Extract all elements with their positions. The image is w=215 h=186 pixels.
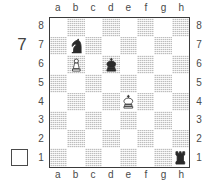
rank-label-5: 5 [192,74,206,93]
square-e2[interactable] [120,130,137,149]
square-f1[interactable] [137,148,154,167]
square-b3[interactable] [67,111,84,130]
file-label-h: h [172,1,190,15]
rank-label-7: 7 [34,36,48,55]
side-to-move-indicator [11,149,28,166]
square-e5[interactable] [120,74,137,93]
square-f4[interactable] [137,93,154,112]
square-h7[interactable] [172,37,189,56]
square-g8[interactable] [154,18,171,37]
square-h4[interactable] [172,93,189,112]
square-g6[interactable] [154,55,171,74]
rank-label-2: 2 [34,130,48,149]
square-a3[interactable] [50,111,67,130]
square-f2[interactable] [137,130,154,149]
white-pawn-icon[interactable] [67,55,84,74]
square-a1[interactable] [50,148,67,167]
rank-label-1: 1 [192,149,206,168]
square-h2[interactable] [172,130,189,149]
file-label-b: b [67,168,85,182]
file-labels-top: abcdefgh [49,1,190,16]
square-a6[interactable] [50,55,67,74]
square-e3[interactable] [120,111,137,130]
square-h3[interactable] [172,111,189,130]
square-h8[interactable] [172,18,189,37]
square-d8[interactable] [102,18,119,37]
square-b1[interactable] [67,148,84,167]
file-label-g: g [155,168,173,182]
square-c7[interactable] [85,37,102,56]
file-label-e: e [120,168,138,182]
square-h5[interactable] [172,74,189,93]
square-e7[interactable] [120,37,137,56]
square-c8[interactable] [85,18,102,37]
file-label-c: c [84,168,102,182]
square-a5[interactable] [50,74,67,93]
black-king-icon[interactable] [102,55,119,74]
rank-label-3: 3 [34,111,48,130]
square-h6[interactable] [172,55,189,74]
chess-board-wrapper [49,17,190,168]
square-f3[interactable] [137,111,154,130]
square-a7[interactable] [50,37,67,56]
rank-label-8: 8 [192,17,206,36]
square-b6[interactable] [67,55,84,74]
square-g1[interactable] [154,148,171,167]
square-a2[interactable] [50,130,67,149]
square-d6[interactable] [102,55,119,74]
file-label-a: a [49,168,67,182]
rank-label-2: 2 [192,130,206,149]
square-g7[interactable] [154,37,171,56]
chess-board [49,17,190,168]
square-d1[interactable] [102,148,119,167]
rank-label-7: 7 [192,36,206,55]
square-b2[interactable] [67,130,84,149]
rank-label-3: 3 [192,111,206,130]
rank-label-8: 8 [34,17,48,36]
square-e8[interactable] [120,18,137,37]
square-g3[interactable] [154,111,171,130]
square-b5[interactable] [67,74,84,93]
square-a4[interactable] [50,93,67,112]
file-label-f: f [137,1,155,15]
square-b8[interactable] [67,18,84,37]
square-c2[interactable] [85,130,102,149]
square-c3[interactable] [85,111,102,130]
square-h1[interactable] [172,148,189,167]
square-e4[interactable] [120,93,137,112]
square-g4[interactable] [154,93,171,112]
square-d4[interactable] [102,93,119,112]
square-f5[interactable] [137,74,154,93]
square-e6[interactable] [120,55,137,74]
square-g5[interactable] [154,74,171,93]
square-d2[interactable] [102,130,119,149]
square-e1[interactable] [120,148,137,167]
white-king-icon[interactable] [120,93,137,112]
rank-label-5: 5 [34,74,48,93]
square-d7[interactable] [102,37,119,56]
rank-label-1: 1 [34,149,48,168]
square-c5[interactable] [85,74,102,93]
rank-labels-right: 87654321 [192,17,206,168]
square-b4[interactable] [67,93,84,112]
square-c1[interactable] [85,148,102,167]
chess-diagram: 7 abcdefgh 87654321 87654321 abcdefgh [0,0,215,186]
rank-label-4: 4 [192,93,206,112]
rank-label-6: 6 [34,55,48,74]
square-g2[interactable] [154,130,171,149]
file-label-d: d [102,1,120,15]
square-c4[interactable] [85,93,102,112]
square-f7[interactable] [137,37,154,56]
square-f6[interactable] [137,55,154,74]
file-label-e: e [120,1,138,15]
square-b7[interactable] [67,37,84,56]
square-c6[interactable] [85,55,102,74]
square-d3[interactable] [102,111,119,130]
black-rook-icon[interactable] [172,148,189,167]
square-a8[interactable] [50,18,67,37]
square-d5[interactable] [102,74,119,93]
black-knight-icon[interactable] [67,37,84,56]
square-f8[interactable] [137,18,154,37]
file-label-g: g [155,1,173,15]
rank-label-4: 4 [34,93,48,112]
